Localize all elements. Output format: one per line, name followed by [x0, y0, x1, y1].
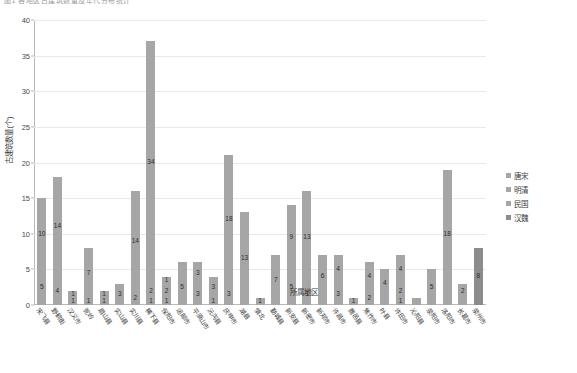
bar-segment[interactable]: 1 — [68, 291, 77, 298]
bar-segment[interactable]: 1 — [349, 298, 358, 305]
stacked-bar[interactable]: 11 — [68, 291, 77, 305]
stacked-bar[interactable]: 8 — [474, 248, 483, 305]
bar-segment[interactable]: 6 — [318, 255, 327, 298]
bar-segment[interactable]: 1 — [256, 298, 265, 305]
bar-slot[interactable]: 13 — [206, 20, 222, 305]
bar-segment[interactable]: 7 — [84, 248, 93, 298]
bar-segment[interactable]: 4 — [53, 277, 62, 306]
bar-segment[interactable]: 2 — [365, 291, 374, 305]
stacked-bar[interactable]: 124 — [396, 255, 405, 305]
bar-segment[interactable]: 3 — [115, 284, 124, 305]
bar-segment[interactable]: 10 — [37, 198, 46, 269]
bar-slot[interactable]: 510 — [34, 20, 50, 305]
legend-item[interactable]: 汉魏 — [506, 212, 528, 223]
stacked-bar[interactable]: 1 — [256, 298, 265, 305]
bar-segment[interactable]: 8 — [474, 248, 483, 305]
bar-slot[interactable]: 8 — [471, 20, 487, 305]
stacked-bar[interactable]: 11 — [100, 291, 109, 305]
legend-item[interactable]: 唐宋 — [506, 170, 528, 181]
stacked-bar[interactable]: 51 — [178, 262, 187, 305]
bar-slot[interactable]: 7 — [268, 20, 284, 305]
stacked-bar[interactable]: 5 — [427, 269, 436, 305]
bar-segment[interactable]: 1 — [458, 298, 467, 305]
bar-segment[interactable]: 1 — [68, 298, 77, 305]
bar-slot[interactable]: 51 — [174, 20, 190, 305]
bar-segment[interactable]: 5 — [427, 269, 436, 305]
legend-item[interactable]: 民国 — [506, 198, 528, 209]
bar-segment[interactable]: 1 — [146, 298, 155, 305]
stacked-bar[interactable]: 1 — [412, 298, 421, 305]
bar-segment[interactable]: 1 — [162, 298, 171, 305]
bar-segment[interactable]: 4 — [334, 255, 343, 284]
bar-slot[interactable]: 17 — [81, 20, 97, 305]
bar-segment[interactable]: 4 — [365, 262, 374, 291]
bar-segment[interactable]: 2 — [458, 284, 467, 298]
bar-segment[interactable]: 1 — [162, 277, 171, 284]
bar-segment[interactable]: 1 — [178, 262, 187, 269]
bar-slot[interactable]: 24 — [361, 20, 377, 305]
bar-segment[interactable]: 4 — [396, 255, 405, 284]
stacked-bar[interactable]: 13 — [209, 277, 218, 306]
bar-segment[interactable]: 18 — [224, 155, 233, 283]
bar-segment[interactable]: 13 — [240, 212, 249, 305]
bar-segment[interactable]: 3 — [193, 262, 202, 283]
stacked-bar[interactable]: 33 — [193, 262, 202, 305]
stacked-bar[interactable]: 34 — [334, 255, 343, 305]
bar-slot[interactable]: 414 — [50, 20, 66, 305]
bar-segment[interactable]: 2 — [396, 284, 405, 298]
stacked-bar[interactable]: 24 — [365, 262, 374, 305]
bar-segment[interactable]: 9 — [287, 205, 296, 269]
bar-slot[interactable]: 118 — [439, 20, 455, 305]
bar-slot[interactable]: 121 — [159, 20, 175, 305]
bar-slot[interactable]: 59 — [284, 20, 300, 305]
bar-slot[interactable]: 3 — [112, 20, 128, 305]
bar-slot[interactable]: 313 — [299, 20, 315, 305]
stacked-bar[interactable]: 1234 — [146, 41, 155, 305]
bar-segment[interactable]: 1 — [100, 298, 109, 305]
bar-slot[interactable]: 124 — [393, 20, 409, 305]
bar-slot[interactable]: 16 — [315, 20, 331, 305]
bar-segment[interactable]: 3 — [209, 277, 218, 298]
bar-segment[interactable]: 1 — [84, 298, 93, 305]
legend-item[interactable]: 明清 — [506, 184, 528, 195]
bar-segment[interactable]: 3 — [193, 284, 202, 305]
bar-segment[interactable]: 14 — [53, 177, 62, 277]
bar-segment[interactable]: 1 — [396, 298, 405, 305]
bar-segment[interactable]: 2 — [146, 284, 155, 298]
bar-segment[interactable]: 14 — [131, 191, 140, 291]
bar-slot[interactable]: 1 — [408, 20, 424, 305]
stacked-bar[interactable]: 17 — [84, 248, 93, 305]
bar-slot[interactable]: 11 — [96, 20, 112, 305]
bar-segment[interactable]: 1 — [443, 298, 452, 305]
bar-slot[interactable]: 1 — [252, 20, 268, 305]
bar-slot[interactable]: 13 — [237, 20, 253, 305]
stacked-bar[interactable]: 7 — [271, 255, 280, 305]
bar-segment[interactable]: 18 — [443, 170, 452, 298]
bar-segment[interactable]: 1 — [209, 298, 218, 305]
stacked-bar[interactable]: 214 — [131, 191, 140, 305]
bar-segment[interactable]: 13 — [302, 191, 311, 284]
bar-segment[interactable]: 3 — [334, 284, 343, 305]
bar-slot[interactable]: 11 — [65, 20, 81, 305]
stacked-bar[interactable]: 16 — [318, 255, 327, 305]
bar-segment[interactable]: 5 — [178, 269, 187, 305]
bar-slot[interactable]: 12 — [455, 20, 471, 305]
bar-segment[interactable]: 34 — [146, 41, 155, 283]
bar-segment[interactable]: 2 — [162, 284, 171, 298]
stacked-bar[interactable]: 14 — [380, 269, 389, 305]
stacked-bar[interactable]: 414 — [53, 177, 62, 305]
bar-slot[interactable]: 1 — [346, 20, 362, 305]
stacked-bar[interactable]: 318 — [224, 155, 233, 305]
bar-slot[interactable]: 34 — [330, 20, 346, 305]
stacked-bar[interactable]: 118 — [443, 170, 452, 305]
stacked-bar[interactable]: 12 — [458, 284, 467, 305]
bar-slot[interactable]: 14 — [377, 20, 393, 305]
bar-slot[interactable]: 1234 — [143, 20, 159, 305]
bar-segment[interactable]: 1 — [412, 298, 421, 305]
bar-segment[interactable]: 5 — [37, 269, 46, 305]
bar-slot[interactable]: 5 — [424, 20, 440, 305]
bar-slot[interactable]: 318 — [221, 20, 237, 305]
bar-segment[interactable]: 4 — [380, 269, 389, 298]
stacked-bar[interactable]: 1 — [349, 298, 358, 305]
bar-slot[interactable]: 214 — [128, 20, 144, 305]
